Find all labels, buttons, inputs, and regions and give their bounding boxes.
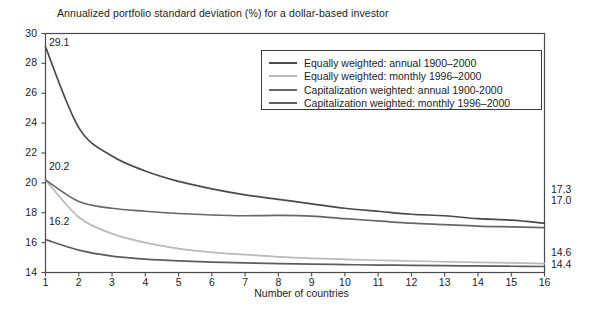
legend-item-label: Equally weighted: monthly 1996–2000	[304, 70, 481, 82]
legend-item-label: Capitalization weighted: annual 1900-200…	[304, 84, 502, 96]
series-end-value-label: 17.0	[551, 194, 571, 206]
series-line-2	[46, 180, 545, 264]
legend-item-1[interactable]: Equally weighted: annual 1900–2000	[269, 56, 476, 69]
series-end-value-label: 14.4	[551, 258, 571, 270]
y-axis-tick-label: 22	[11, 146, 37, 158]
legend-item-label: Equally weighted: annual 1900–2000	[304, 57, 476, 69]
chart-figure: Annualized portfolio standard deviation …	[0, 0, 603, 326]
y-axis-tick-label: 16	[11, 236, 37, 248]
series-start-value-label: 29.1	[49, 36, 69, 48]
legend-line-swatch	[269, 62, 297, 64]
chart-legend: Equally weighted: annual 1900–2000Equall…	[261, 50, 542, 110]
y-axis-tick-label: 24	[11, 116, 37, 128]
series-end-value-label: 14.6	[551, 246, 571, 258]
series-line-3	[46, 180, 545, 228]
legend-line-swatch	[269, 102, 297, 104]
series-start-value-label: 20.2	[49, 160, 69, 172]
legend-item-3[interactable]: Capitalization weighted: annual 1900-200…	[269, 83, 502, 96]
x-axis-title: Number of countries	[0, 287, 603, 299]
legend-item-2[interactable]: Equally weighted: monthly 1996–2000	[269, 70, 481, 83]
legend-item-4[interactable]: Capitalization weighted: monthly 1996–20…	[269, 97, 510, 110]
y-axis-tick-label: 28	[11, 56, 37, 68]
legend-line-swatch	[269, 89, 297, 91]
y-axis-tick-label: 18	[11, 206, 37, 218]
y-axis-tick-label: 26	[11, 86, 37, 98]
y-axis-tick-label: 30	[11, 27, 37, 39]
series-start-value-label: 16.2	[49, 215, 69, 227]
y-axis-tick-label: 20	[11, 176, 37, 188]
y-axis-tick-label: 14	[11, 266, 37, 278]
legend-line-swatch	[269, 75, 297, 77]
legend-item-label: Capitalization weighted: monthly 1996–20…	[304, 97, 510, 109]
